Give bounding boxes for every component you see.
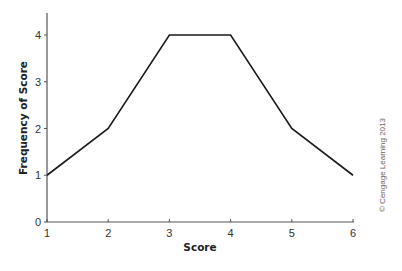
copyright-notice: © Cengage Learning 2013 — [378, 117, 387, 212]
y-tick-label: 1 — [35, 169, 41, 181]
x-axis-label: Score — [183, 241, 216, 253]
frequency-polygon-chart: 01234 123456 Score Frequency of Score © … — [0, 0, 402, 271]
y-tick-label: 0 — [35, 216, 41, 228]
y-tick-label: 3 — [35, 76, 41, 88]
y-tick-label: 2 — [35, 123, 41, 135]
x-tick-label: 5 — [289, 227, 295, 239]
x-tick-label: 3 — [166, 227, 172, 239]
x-tick-label: 2 — [105, 227, 111, 239]
x-tick-label: 6 — [350, 227, 356, 239]
y-tick-label: 4 — [35, 29, 41, 41]
x-tick-label: 4 — [228, 227, 234, 239]
x-tick-label: 1 — [44, 227, 50, 239]
y-axis-ticks: 01234 — [35, 29, 47, 228]
data-line — [47, 35, 353, 175]
y-axis-label: Frequency of Score — [17, 61, 29, 175]
